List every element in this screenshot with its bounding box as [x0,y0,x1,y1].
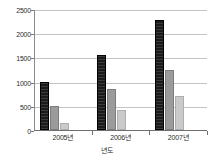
bar [165,70,174,131]
bar [40,82,49,130]
x-tick-label: 2006년 [93,134,149,142]
plot-area [34,10,207,131]
bar [60,123,69,130]
bar [107,89,116,130]
bar [155,20,164,130]
y-tick-mark [31,131,34,132]
x-tick-mark [207,131,208,135]
bar-group [155,10,184,130]
x-tick-label: 2005년 [35,134,91,142]
y-tick-label: 500 [3,104,31,111]
bar [97,55,106,130]
bar-group [40,10,69,130]
bar [50,106,59,130]
x-tick-label: 2007년 [150,134,206,142]
x-axis-title: 년도 [0,147,214,155]
y-tick-label: 2000 [3,31,31,38]
y-tick-label: 1500 [3,55,31,62]
y-tick-label: 0 [3,128,31,135]
bar [117,110,126,130]
bar [175,96,184,130]
bar-group [97,10,126,130]
y-tick-label: 1000 [3,80,31,87]
bar-chart: 05001000150020002500 2005년2006년2007년 년도 [0,0,214,163]
y-tick-label: 2500 [3,7,31,14]
